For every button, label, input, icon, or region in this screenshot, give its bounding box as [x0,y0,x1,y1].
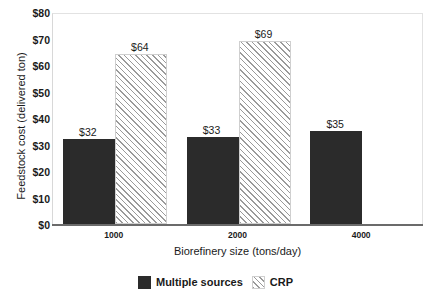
solid-dark-swatch [138,276,151,289]
bar-value-label: $32 [62,127,114,138]
legend-item[interactable]: Multiple sources [138,276,243,289]
bar-4000-multiple-sources [310,131,362,224]
x-axis-tick-labels: 100020004000 [52,229,423,243]
y-axis-tick-label: $20 [12,167,50,177]
chart-legend: Multiple sourcesCRP [0,272,431,292]
y-axis-tick-label: $30 [12,141,50,151]
legend-item[interactable]: CRP [252,276,293,289]
bar-value-label: $33 [186,125,238,136]
plot-area [52,13,423,225]
x-axis-tick-label: 4000 [299,229,423,241]
legend-item-label: CRP [270,276,293,289]
x-axis-tick-label: 1000 [52,229,176,241]
y-axis-tick-labels: $0$10$20$30$40$50$60$70$80 [12,13,50,225]
bar-chart: Feedstock cost (delivered ton) $0$10$20$… [0,0,431,299]
y-axis-tick-label: $10 [12,194,50,204]
y-axis-tick-label: $80 [12,8,50,18]
legend-item-label: Multiple sources [156,276,243,289]
y-axis-tick-label: $40 [12,114,50,124]
y-axis-tick-label: $60 [12,61,50,71]
bar-2000-crp [239,41,291,224]
bar-value-label: $69 [238,29,290,40]
x-axis-tick-label: 2000 [176,229,300,241]
bar-series-container [53,14,422,224]
y-axis-tick-label: $70 [12,35,50,45]
hatched-swatch [252,276,265,289]
y-axis-tick-label: $0 [12,220,50,230]
y-axis-tick-label: $50 [12,88,50,98]
bar-value-label: $64 [114,42,166,53]
bar-value-label: $35 [309,119,361,130]
bar-1000-multiple-sources [63,139,115,224]
bar-1000-crp [115,54,167,224]
x-axis-line [52,224,423,226]
bar-2000-multiple-sources [187,137,239,224]
x-axis-title: Biorefinery size (tons/day) [52,244,423,258]
